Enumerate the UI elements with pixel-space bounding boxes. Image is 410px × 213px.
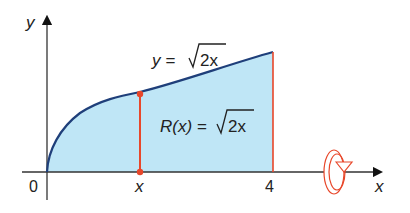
- x-axis-label: x: [374, 177, 384, 196]
- svg-text:2x: 2x: [200, 51, 218, 70]
- solid-of-revolution-diagram: y x 0 x 4 y = 2x R(x) = 2x: [0, 0, 410, 213]
- origin-label: 0: [29, 178, 38, 195]
- x-end-tick-label: 4: [265, 178, 274, 195]
- curve-equation-label: y = 2x: [151, 44, 226, 70]
- svg-text:y =: y =: [151, 51, 175, 70]
- radius-bottom-point: [137, 169, 143, 175]
- y-axis-label: y: [25, 13, 36, 32]
- svg-text:R(x) =: R(x) =: [160, 117, 207, 136]
- x-tick-label: x: [134, 177, 144, 196]
- radius-top-point: [137, 91, 143, 97]
- diagram-canvas: y x 0 x 4 y = 2x R(x) = 2x: [0, 0, 410, 213]
- svg-text:2x: 2x: [228, 117, 246, 136]
